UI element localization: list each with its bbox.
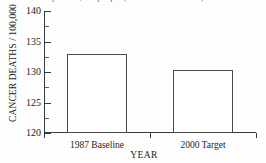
y-tick-minor <box>45 118 49 119</box>
y-tick-label: 120 <box>26 128 41 138</box>
y-tick-minor <box>45 87 49 88</box>
y-tick-minor <box>45 26 49 27</box>
y-tick-major <box>45 133 51 134</box>
x-axis-label: YEAR <box>0 150 266 160</box>
y-tick-label: 125 <box>26 98 41 108</box>
x-category-label: 2000 Target <box>180 140 225 150</box>
y-tick-major <box>45 11 51 12</box>
x-tick <box>256 133 257 138</box>
y-tick-label: 140 <box>26 6 41 16</box>
y-tick-minor <box>45 57 49 58</box>
y-tick-label: 130 <box>26 67 41 77</box>
chart-figure: per 100,000 people (1987 Baseline = 133)… <box>0 0 266 163</box>
bar <box>173 70 233 133</box>
bar <box>67 54 127 133</box>
y-tick-label: 135 <box>26 37 41 47</box>
x-category-label: 1987 Baseline <box>70 140 124 150</box>
y-tick-major <box>45 72 51 73</box>
chart-title-text: per 100,000 people (1987 Baseline = 133) <box>52 0 204 2</box>
x-tick <box>150 133 151 138</box>
x-tick <box>44 133 45 138</box>
plot-area: 120125130135140 <box>44 11 256 133</box>
y-tick-major <box>45 42 51 43</box>
y-tick-major <box>45 103 51 104</box>
y-axis-label: CANCER DEATHS / 100,000 <box>8 0 18 128</box>
x-axis-label-text: YEAR <box>130 150 157 160</box>
